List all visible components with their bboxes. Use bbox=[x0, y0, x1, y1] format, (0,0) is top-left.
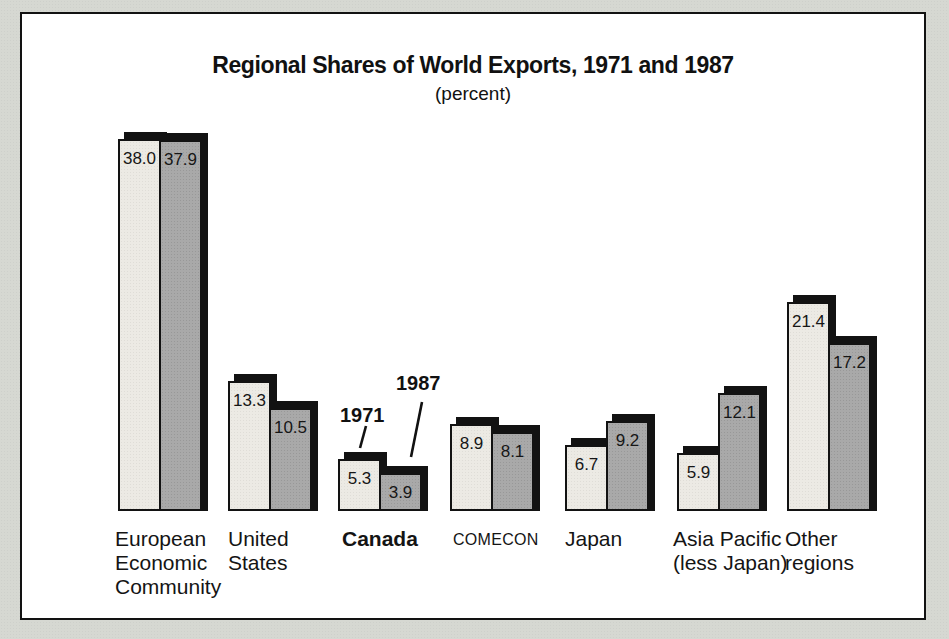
bar-value-label: 8.1 bbox=[501, 442, 525, 462]
category-label-japan: Japan bbox=[565, 527, 622, 551]
bar-european-economic-community-1987: 37.9 bbox=[159, 140, 202, 511]
bar-asia-pacific-less-japan-1987: 12.1 bbox=[718, 393, 761, 511]
bar-united-states-1971: 13.3 bbox=[228, 381, 271, 511]
leader-line-1987 bbox=[411, 402, 422, 457]
leader-line-1971 bbox=[360, 426, 366, 448]
category-label-asia-pacific-less-japan: Asia Pacific(less Japan) bbox=[673, 527, 787, 575]
bar-japan-1971: 6.7 bbox=[565, 445, 608, 511]
bar-japan-1987: 9.2 bbox=[606, 421, 649, 511]
category-label-united-states: UnitedStates bbox=[228, 527, 289, 575]
bar-value-label: 3.9 bbox=[389, 483, 413, 503]
category-label-line: United bbox=[228, 527, 289, 551]
bar-value-label: 12.1 bbox=[723, 403, 756, 423]
bar-other-regions-1987: 17.2 bbox=[828, 343, 871, 511]
bar-value-label: 8.9 bbox=[460, 434, 484, 454]
series-label-1971: 1971 bbox=[340, 404, 385, 427]
bar-value-label: 17.2 bbox=[833, 353, 866, 373]
category-label-line: regions bbox=[785, 551, 854, 575]
category-label-line: States bbox=[228, 551, 289, 575]
category-label-line: Community bbox=[115, 575, 221, 599]
bar-value-label: 5.3 bbox=[348, 469, 372, 489]
category-label-line: (less Japan) bbox=[673, 551, 787, 575]
plot-area: 1971 1987 38.037.9EuropeanEconomicCommun… bbox=[22, 14, 924, 618]
bar-value-label: 6.7 bbox=[575, 455, 599, 475]
category-label-line: Other bbox=[785, 527, 854, 551]
category-label-other-regions: Otherregions bbox=[785, 527, 854, 575]
page-background: { "page": { "background": "#d6d8d2" }, "… bbox=[0, 0, 949, 639]
category-label-comecon: COMECON bbox=[453, 527, 539, 549]
bar-asia-pacific-less-japan-1971: 5.9 bbox=[677, 453, 720, 511]
bar-united-states-1987: 10.5 bbox=[269, 408, 312, 511]
category-label-european-economic-community: EuropeanEconomicCommunity bbox=[115, 527, 221, 599]
bar-value-label: 37.9 bbox=[164, 150, 197, 170]
series-label-1987: 1987 bbox=[396, 372, 441, 395]
category-label-line: Economic bbox=[115, 551, 221, 575]
bar-canada-1971: 5.3 bbox=[338, 459, 381, 511]
bar-value-label: 21.4 bbox=[792, 312, 825, 332]
bar-comecon-1987: 8.1 bbox=[491, 432, 534, 511]
bar-value-label: 38.0 bbox=[123, 149, 156, 169]
category-label-line: Canada bbox=[342, 527, 418, 551]
bar-canada-1987: 3.9 bbox=[379, 473, 422, 511]
category-label-canada: Canada bbox=[342, 527, 418, 551]
bar-value-label: 9.2 bbox=[616, 431, 640, 451]
bar-european-economic-community-1971: 38.0 bbox=[118, 139, 161, 511]
bar-value-label: 10.5 bbox=[274, 418, 307, 438]
category-label-line: Asia Pacific bbox=[673, 527, 787, 551]
bar-value-label: 5.9 bbox=[687, 463, 711, 483]
category-label-line: COMECON bbox=[453, 531, 539, 549]
category-label-line: European bbox=[115, 527, 221, 551]
chart-frame: Regional Shares of World Exports, 1971 a… bbox=[20, 12, 926, 620]
bar-value-label: 13.3 bbox=[233, 391, 266, 411]
bar-comecon-1971: 8.9 bbox=[450, 424, 493, 511]
bar-other-regions-1971: 21.4 bbox=[787, 302, 830, 511]
category-label-line: Japan bbox=[565, 527, 622, 551]
